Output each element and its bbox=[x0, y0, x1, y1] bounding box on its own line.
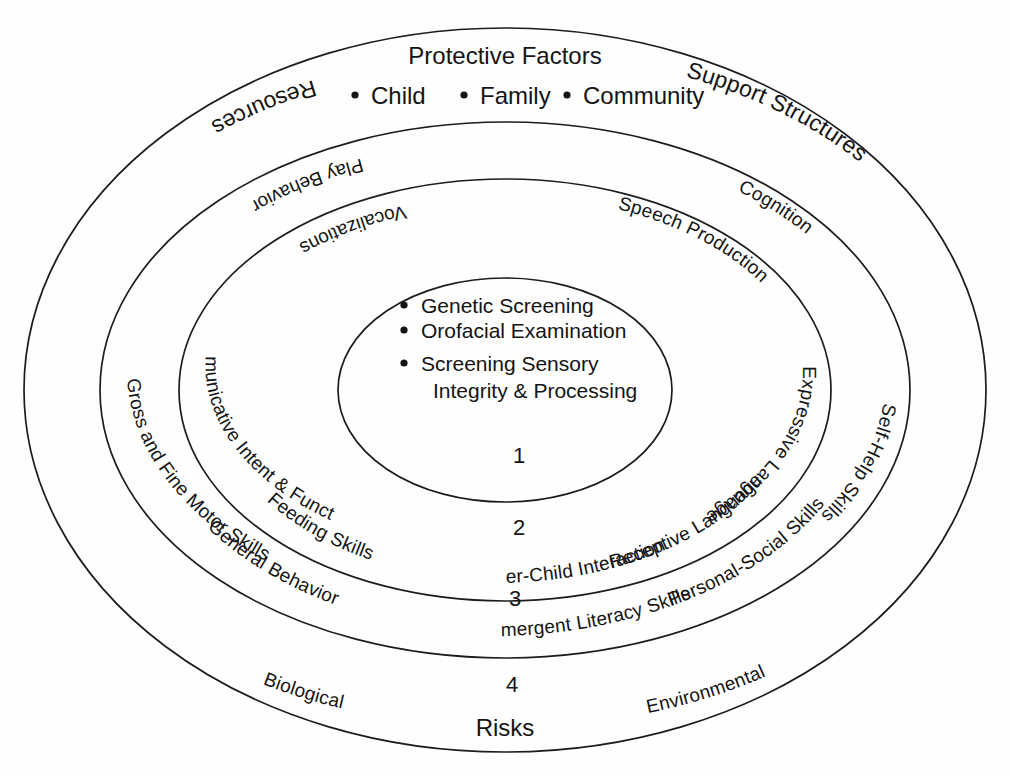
bullet-dot-icon bbox=[400, 326, 407, 333]
ring-number-1: 1 bbox=[513, 443, 525, 468]
bullet-dot-icon bbox=[563, 91, 570, 98]
bullet-label-family: Family bbox=[480, 82, 551, 109]
ring-number-2: 2 bbox=[513, 515, 525, 540]
ring3-label-self-help-skills: Self-Help Skills bbox=[818, 402, 901, 527]
protective-factors-heading: Protective Factors bbox=[408, 42, 601, 69]
diagram-canvas: Protective Factors Child Family Communit… bbox=[0, 0, 1010, 776]
ring4-label-environmental: Environmental bbox=[644, 660, 767, 716]
ring3-label-cognition: Cognition bbox=[736, 176, 818, 238]
ring4-label-resources-text: Resources bbox=[208, 75, 320, 141]
bullet-dot-icon bbox=[400, 301, 407, 308]
risks-heading: Risks bbox=[476, 714, 535, 741]
concentric-ellipse-diagram: Protective Factors Child Family Communit… bbox=[0, 0, 1010, 776]
ring4-label-support-structures-text: Support Structures bbox=[684, 57, 873, 167]
core-item-integrity-processing: Integrity & Processing bbox=[433, 379, 637, 402]
ring-number-4: 4 bbox=[506, 672, 518, 697]
ring2-label-communicative-intent-text: Communicative Intent & Functions bbox=[0, 0, 338, 524]
ring4-label-biological: Biological bbox=[261, 668, 346, 712]
ring2-label-vocalizations: Vocalizations bbox=[296, 202, 408, 260]
bullet-dot-icon bbox=[400, 359, 407, 366]
ring3-label-cognition-text: Cognition bbox=[736, 176, 818, 238]
ring2-label-speech-production: Speech Production bbox=[616, 193, 773, 287]
ring3-label-personal-social: Personal-Social Skills bbox=[665, 493, 828, 610]
ring4-label-support-structures: Support Structures bbox=[684, 57, 873, 167]
ring3-label-play-behavior-text: Play Behavior bbox=[248, 155, 366, 218]
ring4-label-resources: Resources bbox=[208, 75, 320, 141]
ring3-label-personal-social-text: Personal-Social Skills bbox=[665, 493, 828, 610]
bullet-dot-icon bbox=[351, 91, 358, 98]
core-items-list: Genetic Screening Orofacial Examination … bbox=[400, 294, 637, 402]
bullet-label-community: Community bbox=[583, 82, 704, 109]
core-item-genetic-screening: Genetic Screening bbox=[421, 294, 594, 317]
ring4-label-biological-text: Biological bbox=[261, 668, 346, 712]
core-item-orofacial-examination: Orofacial Examination bbox=[421, 319, 626, 342]
protective-factors-bullets: Child Family Community bbox=[351, 82, 704, 109]
ring2-label-vocalizations-text: Vocalizations bbox=[296, 202, 408, 260]
ring3-label-play-behavior: Play Behavior bbox=[248, 155, 366, 218]
ring-number-3: 3 bbox=[509, 586, 521, 611]
ring2-label-speech-production-text: Speech Production bbox=[616, 193, 773, 287]
ring2-label-communicative-intent: Communicative Intent & Functions bbox=[0, 0, 338, 524]
core-item-screening-sensory: Screening Sensory bbox=[421, 352, 599, 375]
ring3-label-self-help-skills-text: Self-Help Skills bbox=[818, 402, 901, 527]
bullet-label-child: Child bbox=[371, 82, 426, 109]
bullet-dot-icon bbox=[460, 91, 467, 98]
ring4-label-environmental-text: Environmental bbox=[644, 660, 767, 716]
